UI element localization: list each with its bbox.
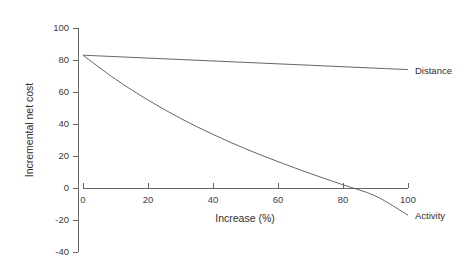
series-line-distance bbox=[83, 55, 408, 69]
x-tick-label-100: 100 bbox=[400, 194, 416, 205]
chart-figure: 100 80 60 40 20 0 -20 -40 Incremental ne… bbox=[0, 0, 468, 275]
y-tick-label-0: 0 bbox=[64, 182, 69, 193]
x-tick-label-40: 40 bbox=[208, 194, 219, 205]
y-axis-tick-labels: 100 80 60 40 20 0 -20 -40 bbox=[53, 22, 69, 257]
y-axis-title: Incremental net cost bbox=[23, 83, 35, 178]
y-tick-label-20: 20 bbox=[58, 150, 69, 161]
y-tick-label-minus20: -20 bbox=[55, 214, 69, 225]
x-axis-tick-labels: 0 20 40 60 80 100 bbox=[80, 194, 416, 205]
y-tick-label-80: 80 bbox=[58, 54, 69, 65]
x-axis-ticks bbox=[83, 183, 408, 188]
series-label-activity: Activity bbox=[415, 210, 445, 221]
y-tick-label-100: 100 bbox=[53, 22, 69, 33]
series-line-activity bbox=[83, 55, 408, 215]
line-chart-svg: 100 80 60 40 20 0 -20 -40 Incremental ne… bbox=[0, 0, 468, 275]
x-tick-label-60: 60 bbox=[273, 194, 284, 205]
x-tick-label-20: 20 bbox=[143, 194, 154, 205]
y-tick-label-40: 40 bbox=[58, 118, 69, 129]
series-label-distance: Distance bbox=[415, 65, 452, 76]
y-tick-label-60: 60 bbox=[58, 86, 69, 97]
x-tick-label-0: 0 bbox=[80, 194, 85, 205]
x-tick-label-80: 80 bbox=[338, 194, 349, 205]
y-axis-ticks bbox=[73, 28, 78, 252]
y-tick-label-minus40: -40 bbox=[55, 246, 69, 257]
x-axis-title: Increase (%) bbox=[215, 212, 275, 224]
